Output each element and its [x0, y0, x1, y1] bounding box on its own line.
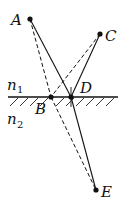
label-c: C: [105, 27, 117, 45]
refraction-diagram: A C B D E n 1 n 2: [0, 0, 126, 210]
label-e: E: [100, 183, 112, 201]
point-d: [68, 94, 73, 99]
ray-a-b: [30, 19, 51, 97]
ray-d-e: [71, 97, 96, 190]
n2-subscript: 2: [17, 119, 23, 130]
n1-letter: n: [7, 76, 17, 94]
n1-subscript: 1: [17, 84, 23, 95]
interface-hatching: [10, 98, 114, 106]
medium-label-n1: n 1: [7, 76, 23, 95]
label-b: B: [34, 100, 46, 118]
ray-b-e: [51, 97, 96, 190]
ray-a-d: [30, 19, 71, 97]
label-a: A: [9, 11, 22, 29]
n2-letter: n: [7, 110, 17, 128]
point-e: [93, 187, 98, 192]
point-a: [27, 16, 32, 21]
point-c: [97, 31, 102, 36]
label-d: D: [79, 79, 92, 97]
point-b: [48, 94, 53, 99]
medium-label-n2: n 2: [7, 110, 23, 130]
